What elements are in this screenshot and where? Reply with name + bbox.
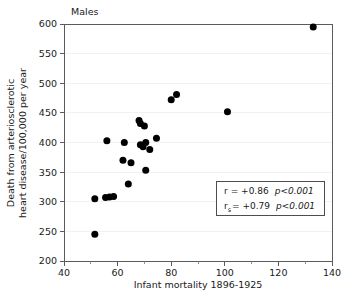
x-ticklabel-100: 100	[216, 267, 234, 278]
data-point	[141, 122, 148, 129]
data-point	[142, 167, 149, 174]
data-point	[173, 91, 180, 98]
y-axis-tick-labels: 200250300350400450500550600	[39, 18, 57, 266]
panel-label: Males	[71, 6, 99, 17]
data-point	[125, 180, 132, 187]
x-ticklabel-120: 120	[269, 267, 287, 278]
data-point	[224, 108, 231, 115]
y-ticklabel-550: 550	[39, 48, 57, 59]
data-point	[146, 146, 153, 153]
data-point	[103, 137, 110, 144]
y-axis-title-line1: Death from arteriosclerotic	[5, 79, 16, 207]
y-ticklabel-250: 250	[39, 226, 57, 237]
chart-svg: 200250300350400450500550600 406080100120…	[0, 0, 342, 292]
legend-row2-pvalue: p<0.001	[275, 201, 315, 211]
data-point	[119, 157, 126, 164]
x-ticklabel-140: 140	[323, 267, 341, 278]
y-ticklabel-350: 350	[39, 167, 57, 178]
statistics-legend: r= +0.86p<0.001 rs= +0.79p<0.001	[216, 181, 324, 215]
data-point	[153, 135, 160, 142]
data-point	[91, 195, 98, 202]
data-point	[91, 231, 98, 238]
x-ticklabel-40: 40	[58, 267, 70, 278]
legend-row1-value: = +0.86	[231, 186, 269, 196]
data-point	[121, 139, 128, 146]
x-ticklabel-80: 80	[165, 267, 177, 278]
y-ticklabel-400: 400	[39, 137, 57, 148]
legend-row1-symbol: r	[224, 186, 228, 196]
x-axis-title: Infant mortality 1896-1925	[134, 279, 263, 290]
data-point	[142, 139, 149, 146]
y-ticklabel-300: 300	[39, 196, 57, 207]
data-point	[310, 23, 317, 30]
data-point	[128, 159, 135, 166]
y-ticklabel-500: 500	[39, 78, 57, 89]
y-ticklabel-600: 600	[39, 18, 57, 29]
scatter-plot-figure: 200250300350400450500550600 406080100120…	[0, 0, 342, 292]
legend-row1-pvalue: p<0.001	[274, 186, 314, 196]
y-ticklabel-200: 200	[39, 255, 57, 266]
legend-row2-value: = +0.79	[232, 201, 270, 211]
x-ticklabel-60: 60	[112, 267, 124, 278]
y-ticklabel-450: 450	[39, 107, 57, 118]
y-axis-title-line2: heart disease/100,000 per year	[17, 68, 28, 218]
data-point	[168, 96, 175, 103]
data-point	[110, 193, 117, 200]
